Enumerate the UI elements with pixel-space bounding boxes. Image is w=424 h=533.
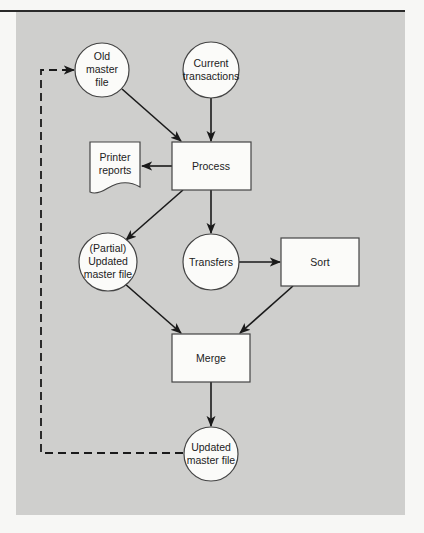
node-label: Sort (310, 256, 329, 268)
edge-old-master-to-process (122, 89, 181, 141)
node-label: master file (84, 268, 133, 280)
node-label: Process (192, 160, 230, 172)
node-label: Old (94, 50, 111, 62)
node-label: file (95, 76, 109, 88)
node-partial-updated-master-file: (Partial) Updated master file (79, 233, 137, 291)
node-transfers: Transfers (183, 234, 239, 290)
node-label: transactions (183, 70, 240, 82)
node-label: (Partial) (90, 242, 127, 254)
node-merge: Merge (172, 334, 250, 382)
node-process: Process (172, 142, 251, 190)
node-label: Printer (100, 151, 131, 163)
node-label: master (86, 63, 119, 75)
node-label: master file (187, 454, 236, 466)
node-label: Transfers (189, 256, 233, 268)
node-current-transactions: Current transactions (183, 42, 240, 98)
node-old-master-file: Old master file (75, 43, 129, 97)
edge-sort-to-merge (240, 286, 293, 333)
node-label: Updated (191, 441, 231, 453)
edge-process-to-partial (126, 190, 183, 240)
flowchart: Old master file Current transactions Pri… (0, 0, 424, 533)
edge-partial-to-merge (124, 283, 181, 333)
node-updated-master-file: Updated master file (184, 427, 238, 481)
node-sort: Sort (281, 238, 359, 286)
node-printer-reports: Printer reports (90, 142, 140, 193)
node-label: Merge (196, 352, 226, 364)
node-label: reports (99, 164, 132, 176)
node-label: Current (193, 57, 228, 69)
node-label: Updated (88, 255, 128, 267)
